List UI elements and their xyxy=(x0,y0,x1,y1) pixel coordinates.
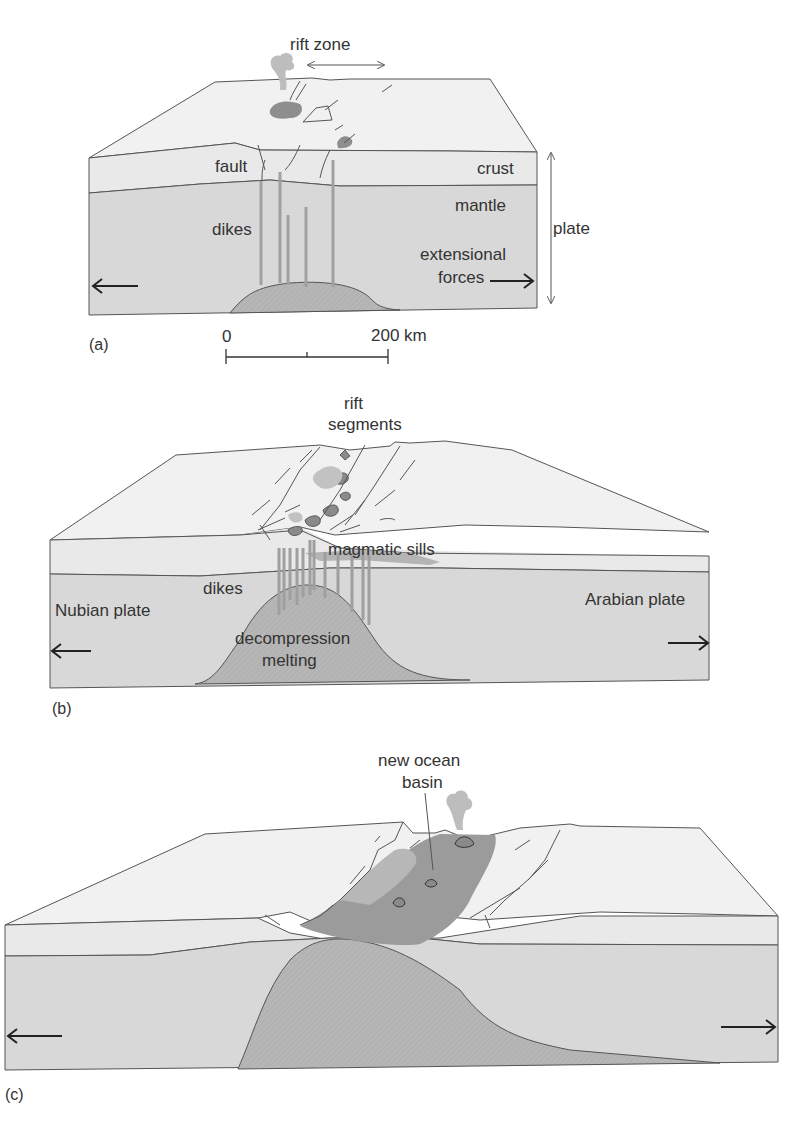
dikes-label: dikes xyxy=(212,220,252,239)
extensional-forces-label-line1: extensional xyxy=(420,245,506,264)
nubian-plate-label: Nubian plate xyxy=(55,601,150,620)
mantle-label: mantle xyxy=(455,196,506,215)
arabian-plate-label: Arabian plate xyxy=(585,590,685,609)
panel-c-volcanic-plume xyxy=(446,791,472,830)
crust-label: crust xyxy=(477,159,514,178)
rift-segments-label-line2: segments xyxy=(328,415,402,434)
panel-c: new ocean basin (c) xyxy=(5,751,778,1103)
panel-a: rift zone fault crust mantle dikes plate… xyxy=(89,35,590,364)
decompression-melting-label-line1: decompression xyxy=(235,629,350,648)
scale-bar-start-label: 0 xyxy=(222,327,231,346)
scale-bar xyxy=(226,349,388,364)
extensional-forces-label-line2: forces xyxy=(438,268,484,287)
plate-label: plate xyxy=(553,219,590,238)
rift-segments-label-line1: rift xyxy=(344,394,363,413)
panel-a-label: (a) xyxy=(89,336,109,353)
panel-b-top-surface xyxy=(50,441,709,540)
new-ocean-basin-label-line1: new ocean xyxy=(378,751,460,770)
panel-a-top-surface xyxy=(89,78,537,158)
scale-bar-end-label: 200 km xyxy=(371,326,427,345)
rift-zone-label: rift zone xyxy=(290,35,350,54)
new-ocean-basin-label-line2: basin xyxy=(402,773,443,792)
fault-label: fault xyxy=(215,157,247,176)
panel-c-label: (c) xyxy=(5,1086,24,1103)
dikes-label-b: dikes xyxy=(203,579,243,598)
panel-b-label: (b) xyxy=(52,700,72,717)
rifting-diagram: rift zone fault crust mantle dikes plate… xyxy=(0,0,801,1122)
panel-b: rift segments magmatic sills dikes Nubia… xyxy=(50,394,709,717)
magmatic-sills-label: magmatic sills xyxy=(328,540,435,559)
decompression-melting-label-line2: melting xyxy=(262,651,317,670)
